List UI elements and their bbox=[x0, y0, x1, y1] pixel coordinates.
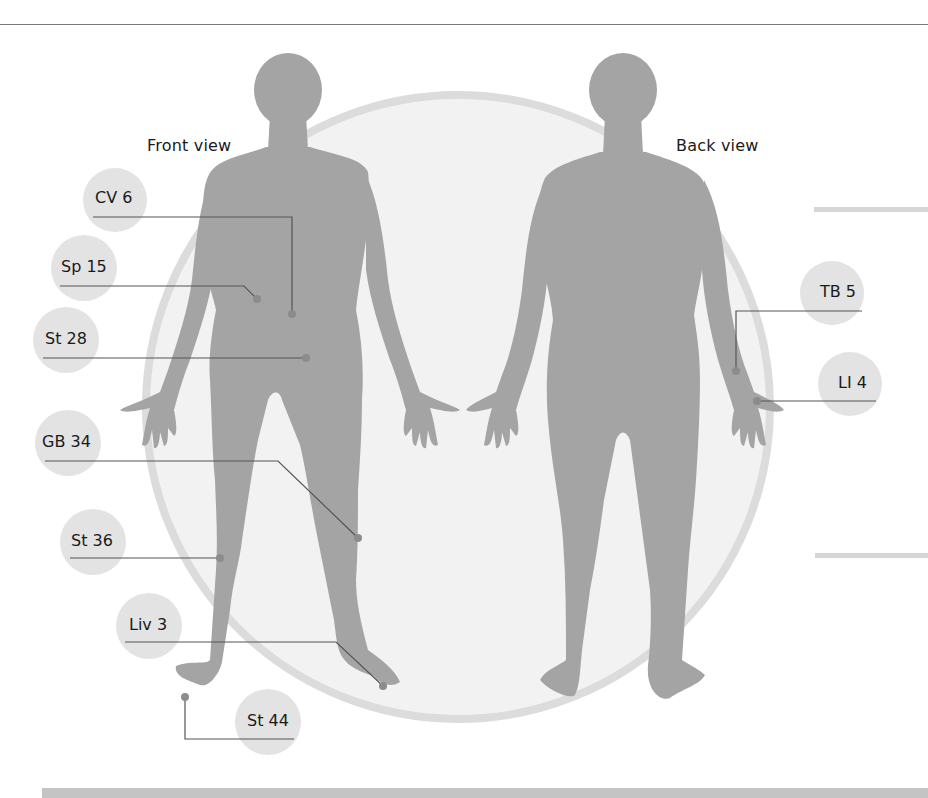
label-st28[interactable]: St 28 bbox=[45, 329, 87, 348]
dot-liv3[interactable] bbox=[379, 682, 387, 690]
dot-tb5[interactable] bbox=[732, 367, 740, 375]
label-tb5[interactable]: TB 5 bbox=[820, 282, 856, 301]
label-st44[interactable]: St 44 bbox=[247, 711, 289, 730]
front-neck bbox=[268, 115, 308, 150]
dot-gb34[interactable] bbox=[354, 534, 362, 542]
front-view-title: Front view bbox=[147, 136, 231, 155]
dot-st36[interactable] bbox=[216, 554, 224, 562]
dot-st28[interactable] bbox=[302, 354, 310, 362]
label-sp15[interactable]: Sp 15 bbox=[61, 257, 107, 276]
label-st36[interactable]: St 36 bbox=[71, 531, 113, 550]
dot-cv6[interactable] bbox=[288, 310, 296, 318]
acupoint-diagram bbox=[0, 0, 928, 798]
dot-li4[interactable] bbox=[753, 397, 761, 405]
label-gb34[interactable]: GB 34 bbox=[42, 432, 91, 451]
label-liv3[interactable]: Liv 3 bbox=[129, 615, 167, 634]
dot-sp15[interactable] bbox=[253, 295, 261, 303]
dot-st44[interactable] bbox=[181, 693, 189, 701]
label-li4[interactable]: LI 4 bbox=[838, 373, 867, 392]
back-neck bbox=[603, 115, 643, 155]
label-cv6[interactable]: CV 6 bbox=[95, 188, 132, 207]
back-view-title: Back view bbox=[676, 136, 759, 155]
